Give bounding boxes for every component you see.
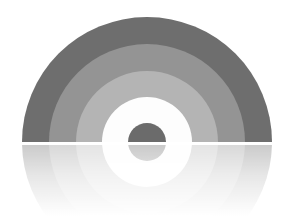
horizon-line: [0, 142, 295, 145]
logo-canvas: [0, 0, 295, 216]
concentric-arc-logo: [0, 0, 295, 216]
